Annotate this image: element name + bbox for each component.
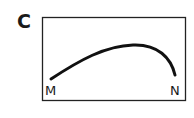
- frame-box: [43, 18, 186, 101]
- diagram-canvas: [0, 0, 194, 118]
- point-label-m: M: [45, 84, 56, 97]
- point-label-n: N: [170, 84, 180, 97]
- curve-m-to-n: [51, 45, 175, 79]
